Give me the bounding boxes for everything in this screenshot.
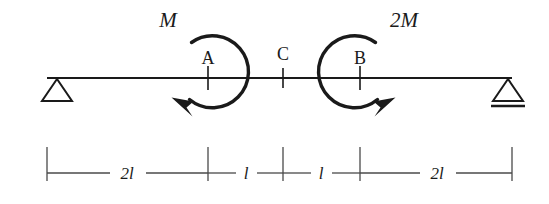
node-b-label: B [354, 48, 366, 68]
moment-at-a-arc [190, 36, 249, 108]
moment-at-b-arc [319, 36, 378, 108]
dimension-label-3: l [319, 164, 324, 183]
moment-at-a-label: M [158, 8, 178, 32]
node-a-label: A [202, 48, 215, 68]
roller-support-right-icon [493, 79, 523, 101]
node-c-label: C [277, 44, 289, 64]
dimension-label-4: 2l [430, 164, 444, 183]
beam-diagram-canvas: A C B M 2M 2l l l [0, 0, 549, 204]
moment-at-b-label: 2M [390, 8, 420, 32]
pin-support-left-icon [42, 79, 72, 101]
dimension-label-2: l [244, 164, 249, 183]
dimension-label-1: 2l [120, 164, 134, 183]
beam-diagram-figure: A C B M 2M 2l l l [0, 0, 549, 204]
